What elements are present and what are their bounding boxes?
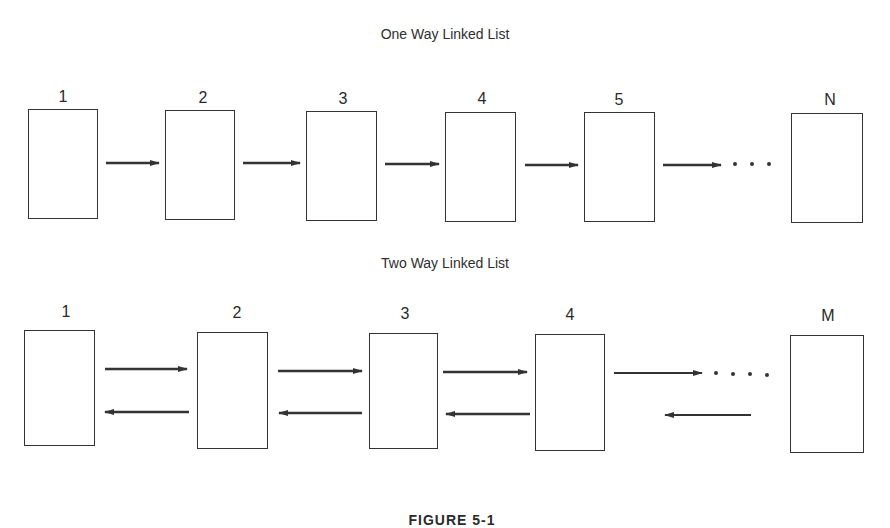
one-way-ellipsis-icon [733,162,771,166]
two-way-ellipsis-icon [714,371,769,377]
figure-caption: FIGURE 5-1 [408,512,495,528]
one-way-arrows [106,163,721,165]
two-way-arrows [105,369,530,414]
